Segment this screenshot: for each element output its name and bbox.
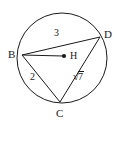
vertex-label-b: B: [8, 49, 15, 60]
segment-cd: [60, 37, 100, 102]
center-label-h: H: [70, 51, 77, 61]
measure-label-cd: √7: [73, 71, 84, 82]
vertex-label-c: C: [56, 108, 63, 119]
vertex-label-d: D: [104, 29, 112, 40]
radicand-value: 7: [78, 71, 84, 82]
geometry-canvas: [0, 0, 119, 143]
circumscribed-circle: [17, 13, 107, 103]
center-point-dot: [62, 54, 66, 58]
segment-bc: [22, 55, 60, 102]
segment-bh: [22, 55, 63, 56]
measure-label-bc: 2: [30, 72, 35, 82]
geometry-figure: B D C H 3 2 √7: [0, 0, 119, 143]
measure-label-bd: 3: [54, 28, 59, 38]
segment-bd: [22, 37, 100, 55]
